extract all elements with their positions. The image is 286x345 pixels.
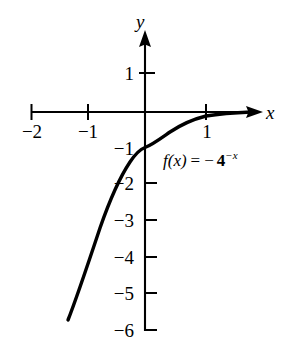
y-tick-label--6: −6: [74, 321, 134, 340]
y-tick-label--1: −1: [74, 139, 134, 158]
y-tick-label--2: −2: [74, 174, 134, 193]
x-tick-label--2: −2: [12, 122, 52, 141]
function-base: 4: [217, 151, 226, 170]
graph-figure: y x −2 −1 1 1 −1 −2 −3 −4 −5 −6 f(x)=−4−…: [0, 0, 286, 345]
function-equals-sign: =: [191, 151, 201, 170]
function-label: f(x)=−4−x: [163, 150, 238, 169]
function-lhs: f(x): [163, 151, 187, 170]
y-axis: [139, 30, 151, 331]
y-tick-label--3: −3: [74, 211, 134, 230]
function-exponent: −x: [225, 149, 237, 161]
y-tick-label--4: −4: [74, 248, 134, 267]
x-axis-label: x: [266, 103, 274, 122]
y-axis-label: y: [136, 12, 144, 31]
x-tick-label-1: 1: [187, 122, 227, 141]
y-tick-label--5: −5: [74, 284, 134, 303]
y-tick-label-1: 1: [74, 64, 134, 83]
coordinate-plane: [0, 0, 286, 345]
function-minus-sign: −: [204, 151, 214, 170]
